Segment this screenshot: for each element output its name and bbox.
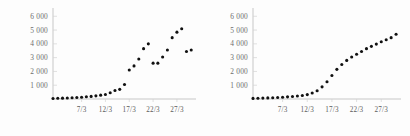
data-point <box>350 55 353 58</box>
left-y-tick-label: 1 000 <box>30 81 48 90</box>
right-y-tick-label: 6 000 <box>230 12 248 21</box>
data-point <box>335 68 338 71</box>
data-point <box>80 96 83 99</box>
left-scatter-chart: 1 0002 0003 0004 0005 0006 000 7/312/317… <box>0 0 205 136</box>
left-y-tick-labels: 1 0002 0003 0004 0005 0006 000 <box>30 12 48 90</box>
data-point <box>132 64 135 67</box>
data-point <box>276 96 279 99</box>
right-x-tick-label: 17/3 <box>325 106 339 114</box>
right-y-tick-labels: 1 0002 0003 0004 0005 0006 000 <box>230 12 248 90</box>
left-x-tick-label: 12/3 <box>99 106 113 114</box>
right-y-tick-label: 1 000 <box>230 81 248 90</box>
data-point <box>71 96 74 99</box>
data-point <box>385 38 388 41</box>
right-x-tick-labels: 7/312/317/322/327/3 <box>278 106 389 114</box>
left-x-tick-marks <box>82 99 177 102</box>
data-point <box>85 95 88 98</box>
left-x-tick-label: 17/3 <box>122 106 136 114</box>
data-point <box>61 97 64 100</box>
right-y-tick-label: 5 000 <box>230 26 248 35</box>
chart-panel-right: 1 0002 0003 0004 0005 0006 000 7/312/317… <box>205 0 410 136</box>
data-point <box>152 62 155 65</box>
data-point <box>271 96 274 99</box>
left-y-tick-label: 3 000 <box>30 53 48 62</box>
left-x-tick-label: 7/3 <box>77 106 87 114</box>
data-point <box>161 55 164 58</box>
data-point <box>365 47 368 50</box>
data-point <box>330 74 333 77</box>
data-point <box>286 95 289 98</box>
data-point <box>321 85 324 88</box>
data-point <box>51 97 54 100</box>
left-x-tick-label: 22/3 <box>146 106 160 114</box>
right-y-tick-label: 4 000 <box>230 39 248 48</box>
right-scatter-chart: 1 0002 0003 0004 0005 0006 000 7/312/317… <box>205 0 410 136</box>
right-y-tick-marks <box>253 16 257 85</box>
data-point <box>190 49 193 52</box>
data-point <box>166 49 169 52</box>
data-point <box>256 97 259 100</box>
right-x-tick-label: 7/3 <box>278 106 288 114</box>
data-point <box>128 69 131 72</box>
data-point <box>325 80 328 83</box>
right-x-tick-label: 12/3 <box>300 106 314 114</box>
right-y-tick-label: 3 000 <box>230 53 248 62</box>
left-x-tick-labels: 7/312/317/322/327/3 <box>77 106 184 114</box>
data-point <box>180 27 183 30</box>
data-point <box>251 97 254 100</box>
data-point <box>175 31 178 34</box>
data-point <box>311 92 314 95</box>
data-point <box>370 45 373 48</box>
data-point <box>123 83 126 86</box>
data-point <box>345 59 348 62</box>
data-point <box>104 93 107 96</box>
data-point <box>147 42 150 45</box>
right-data-points <box>251 33 397 100</box>
right-x-tick-label: 22/3 <box>350 106 364 114</box>
left-data-points <box>51 27 192 100</box>
right-x-tick-label: 27/3 <box>374 106 388 114</box>
data-point <box>340 63 343 66</box>
data-point <box>156 62 159 65</box>
data-point <box>266 96 269 99</box>
data-point <box>261 97 264 100</box>
data-point <box>355 53 358 56</box>
data-point <box>118 88 121 91</box>
data-point <box>390 36 393 39</box>
left-y-tick-marks <box>53 16 57 85</box>
data-point <box>75 96 78 99</box>
left-y-tick-label: 2 000 <box>30 67 48 76</box>
right-y-tick-label: 2 000 <box>230 67 248 76</box>
left-y-tick-label: 4 000 <box>30 39 48 48</box>
data-point <box>66 96 69 99</box>
chart-panel-left: 1 0002 0003 0004 0005 0006 000 7/312/317… <box>0 0 205 136</box>
data-point <box>171 36 174 39</box>
data-point <box>296 94 299 97</box>
right-x-tick-marks <box>283 99 382 102</box>
right-axes <box>253 8 401 99</box>
data-point <box>316 89 319 92</box>
data-point <box>301 94 304 97</box>
data-point <box>360 50 363 53</box>
left-y-tick-label: 5 000 <box>30 26 48 35</box>
data-point <box>306 93 309 96</box>
data-point <box>113 89 116 92</box>
data-point <box>142 47 145 50</box>
data-point <box>185 50 188 53</box>
data-point <box>56 97 59 100</box>
data-point <box>94 94 97 97</box>
data-point <box>109 91 112 94</box>
figure-container: 1 0002 0003 0004 0005 0006 000 7/312/317… <box>0 0 410 136</box>
data-point <box>99 94 102 97</box>
data-point <box>281 96 284 99</box>
left-x-tick-label: 27/3 <box>170 106 184 114</box>
data-point <box>380 40 383 43</box>
data-point <box>291 95 294 98</box>
data-point <box>395 33 398 36</box>
left-y-tick-label: 6 000 <box>30 12 48 21</box>
data-point <box>90 95 93 98</box>
data-point <box>375 43 378 46</box>
data-point <box>137 57 140 60</box>
